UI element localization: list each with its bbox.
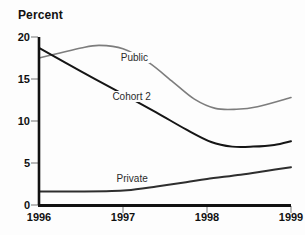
series-label-cohort-2: Cohort 2 bbox=[110, 91, 152, 102]
series-line-cohort-2 bbox=[39, 48, 291, 147]
plot-area bbox=[0, 0, 305, 235]
axis-lines bbox=[38, 37, 291, 206]
series-lines bbox=[39, 45, 291, 191]
series-label-private: Private bbox=[115, 173, 150, 184]
series-line-public bbox=[39, 45, 291, 109]
series-line-private bbox=[39, 167, 291, 191]
series-label-public: Public bbox=[119, 52, 150, 63]
chart-container: Percent 05101520 1996199719981999 Public… bbox=[0, 0, 305, 235]
